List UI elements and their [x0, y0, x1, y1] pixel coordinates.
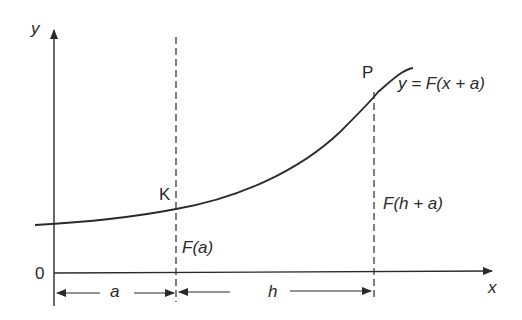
y-axis-label: y — [31, 20, 40, 37]
dim-a-label: a — [110, 283, 119, 300]
curve — [35, 68, 413, 225]
point-k-value-label: F(a) — [182, 239, 213, 256]
diagram-graphics — [0, 0, 522, 320]
x-axis-label: x — [488, 279, 497, 296]
point-p-value-label: F(h + a) — [383, 195, 443, 212]
point-k-label: K — [159, 186, 170, 203]
function-diagram: y x 0 K F(a) P F(h + a) y = F(x + a) a h — [0, 0, 522, 320]
origin-label: 0 — [35, 265, 44, 282]
point-p-label: P — [362, 64, 373, 81]
dim-h-label: h — [268, 283, 277, 300]
curve-equation-label: y = F(x + a) — [398, 75, 485, 92]
x-axis — [54, 271, 492, 273]
